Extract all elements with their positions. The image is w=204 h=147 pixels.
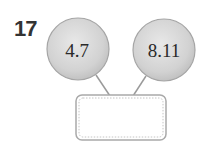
right-value: 8.11 [134, 40, 194, 62]
answer-box[interactable] [80, 99, 162, 136]
connector-right [133, 76, 146, 96]
left-value: 4.7 [47, 40, 107, 62]
connector-left [96, 75, 110, 96]
